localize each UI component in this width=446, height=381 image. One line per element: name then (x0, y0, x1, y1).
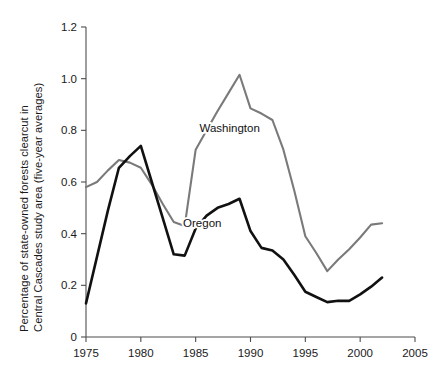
y-tick-label: 0.8 (61, 124, 77, 136)
chart-figure: Percentage of state-owned forests clearc… (0, 0, 446, 381)
line-chart-plot: 00.20.40.60.81.01.2 19751980198519901995… (0, 0, 446, 381)
x-tick-label: 1980 (128, 347, 154, 359)
x-axis-ticks: 1975198019851990199520002005 (73, 337, 428, 359)
x-tick-label: 1975 (73, 347, 99, 359)
y-tick-label: 0.2 (61, 279, 77, 291)
x-tick-label: 2000 (347, 347, 373, 359)
y-axis-label-line-2: Central Cascades study area (five-year a… (32, 83, 44, 332)
y-axis-ticks: 00.20.40.60.81.01.2 (61, 21, 86, 343)
data-series-group (86, 75, 382, 304)
x-tick-label: 1985 (183, 347, 209, 359)
series-label-oregon: Oregon (183, 217, 221, 229)
y-tick-label: 1.2 (61, 21, 77, 33)
x-tick-label: 1990 (238, 347, 264, 359)
series-annotations: WashingtonWashingtonOregonOregon (183, 122, 260, 230)
series-line-washington (86, 75, 382, 271)
x-tick-label: 1995 (293, 347, 319, 359)
y-tick-label: 0.4 (61, 228, 78, 240)
x-tick-label: 2005 (402, 347, 428, 359)
y-tick-label: 0 (71, 331, 77, 343)
y-tick-label: 1.0 (61, 73, 77, 85)
y-axis-label-block: Percentage of state-owned forests clearc… (0, 0, 60, 381)
series-label-washington: Washington (200, 122, 260, 134)
series-line-oregon (86, 146, 382, 304)
y-tick-label: 0.6 (61, 176, 77, 188)
y-axis-label-line-1: Percentage of state-owned forests clearc… (18, 105, 30, 332)
